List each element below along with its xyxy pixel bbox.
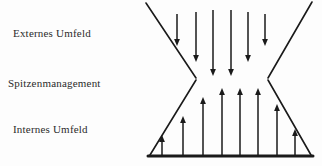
arrow-head bbox=[228, 69, 234, 76]
arrow-head bbox=[219, 88, 225, 95]
up-arrow-7 bbox=[274, 104, 280, 156]
up-arrow-8 bbox=[292, 129, 298, 156]
arrow-head bbox=[262, 39, 268, 46]
arrow-head bbox=[180, 116, 186, 123]
arrow-head bbox=[237, 88, 243, 95]
down-arrow-2 bbox=[193, 12, 199, 62]
funnel-lower-left-edge bbox=[150, 80, 196, 155]
down-arrow-4 bbox=[228, 10, 234, 76]
arrow-head bbox=[200, 97, 206, 104]
up-arrow-5 bbox=[237, 88, 243, 156]
up-arrow-3 bbox=[200, 97, 206, 156]
up-arrow-2 bbox=[180, 116, 186, 156]
funnel-outline-group bbox=[146, 2, 313, 156]
funnel-lower-right-edge bbox=[268, 80, 311, 155]
down-arrow-5 bbox=[245, 12, 251, 62]
label-externes-umfeld: Externes Umfeld bbox=[13, 27, 91, 39]
down-arrow-6 bbox=[262, 14, 268, 46]
label-internes-umfeld: Internes Umfeld bbox=[13, 123, 88, 135]
arrow-head bbox=[193, 55, 199, 62]
funnel-upper-left-edge bbox=[146, 3, 196, 78]
arrow-head bbox=[245, 55, 251, 62]
diagram-canvas: Externes Umfeld Spitzenmanagement Intern… bbox=[0, 0, 322, 166]
label-spitzenmanagement: Spitzenmanagement bbox=[8, 77, 101, 89]
up-arrow-4 bbox=[219, 88, 225, 156]
arrow-head bbox=[255, 88, 261, 95]
funnel-upper-right-edge bbox=[268, 2, 312, 78]
down-arrow-3 bbox=[210, 10, 216, 76]
arrow-head bbox=[174, 39, 180, 46]
up-arrow-6 bbox=[255, 88, 261, 156]
up-arrow-group bbox=[159, 88, 298, 156]
down-arrow-1 bbox=[174, 14, 180, 46]
arrow-head bbox=[274, 104, 280, 111]
arrow-head bbox=[210, 69, 216, 76]
